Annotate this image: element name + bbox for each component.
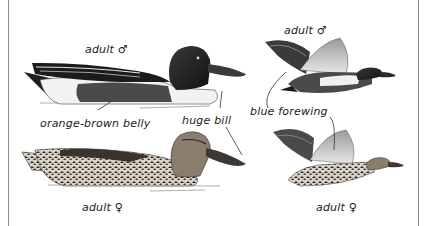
- callout-line-bill-male: [220, 91, 222, 108]
- callout-line-bill-female: [226, 127, 242, 155]
- callout-huge-bill: huge bill: [182, 114, 231, 127]
- male-flying-duck: [265, 38, 396, 93]
- female-flying-duck: [273, 129, 404, 186]
- label-female-swimming: adult ♀: [82, 201, 123, 214]
- callout-blue-forewing: blue forewing: [250, 105, 328, 118]
- male-swimming-duck: [24, 46, 246, 108]
- illustration-canvas: [0, 0, 426, 226]
- label-male-flying: adult ♂: [284, 24, 327, 37]
- label-male-swimming: adult ♂: [85, 43, 128, 56]
- female-swimming-duck: [22, 132, 246, 191]
- callout-orange-brown-belly: orange-brown belly: [40, 117, 150, 130]
- label-female-flying: adult ♀: [316, 201, 357, 214]
